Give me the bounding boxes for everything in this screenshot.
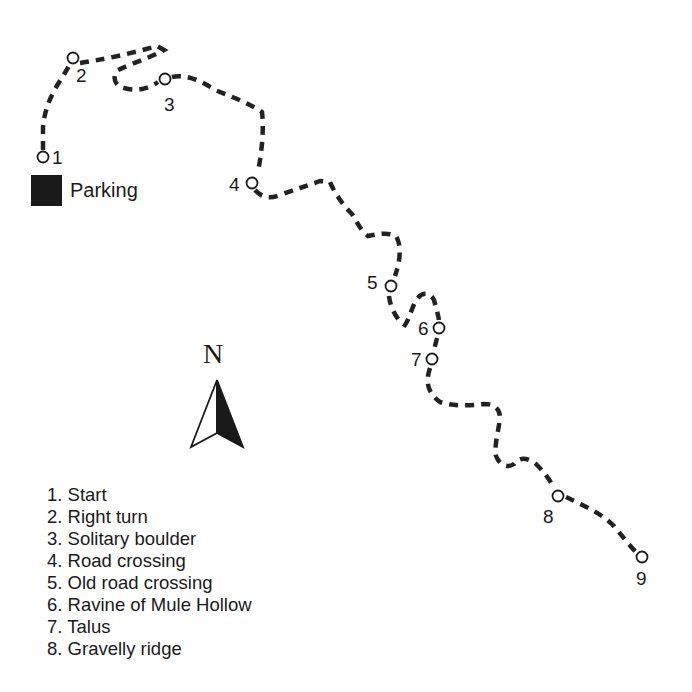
legend-item: 8. Gravelly ridge [47,638,252,660]
waypoint-7-label: 7 [411,350,422,369]
north-arrow-icon [191,380,243,447]
legend-item: 1. Start [47,484,252,506]
waypoint-4-label: 4 [229,175,240,194]
waypoint-5-label: 5 [367,273,378,292]
legend-item: 5. Old road crossing [47,572,252,594]
waypoint-8-marker[interactable] [553,491,564,502]
waypoint-8-label: 8 [543,507,554,526]
parking-icon [31,175,62,206]
legend-item: 3. Solitary boulder [47,528,252,550]
legend-item: 6. Ravine of Mule Hollow [47,594,252,616]
waypoint-3-marker[interactable] [160,74,171,85]
waypoint-9-marker[interactable] [637,552,648,563]
waypoint-9-label: 9 [636,569,647,588]
waypoint-7-marker[interactable] [427,354,438,365]
legend-item: 2. Right turn [47,506,252,528]
waypoint-2-marker[interactable] [68,53,79,64]
waypoint-1-label: 1 [52,148,63,167]
legend-item: 4. Road crossing [47,550,252,572]
waypoint-4-marker[interactable] [247,178,258,189]
north-label: N [203,340,223,368]
waypoint-2-label: 2 [76,66,87,85]
waypoint-legend: 1. Start 2. Right turn 3. Solitary bould… [47,484,252,660]
parking-label: Parking [70,180,138,200]
waypoint-3-label: 3 [164,95,175,114]
waypoint-6-marker[interactable] [434,323,445,334]
waypoint-5-marker[interactable] [386,281,397,292]
waypoint-1-marker[interactable] [38,152,49,163]
legend-item: 7. Talus [47,616,252,638]
trail-path [43,46,636,552]
waypoint-6-label: 6 [418,319,429,338]
